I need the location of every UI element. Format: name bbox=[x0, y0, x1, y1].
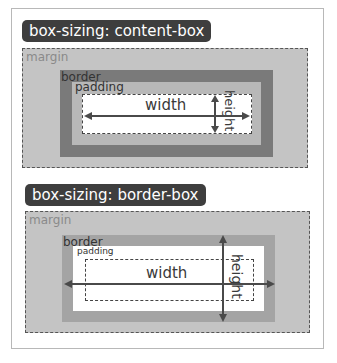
border-box-arrows bbox=[0, 0, 337, 363]
